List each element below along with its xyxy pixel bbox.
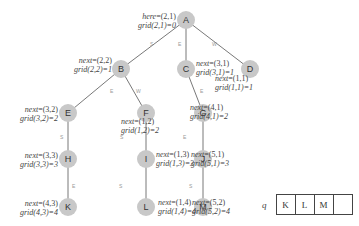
annotation-m: next=(5,2) grid(5,2)=4 (192, 198, 230, 216)
queue-cell: L (296, 195, 315, 214)
annotation-a: here=(2,1) grid(2,1)=0 (120, 12, 176, 30)
edge-label-g-j: E (183, 134, 186, 140)
edge-label-a-c: E (178, 41, 181, 47)
edge-label-b-f: W (136, 88, 141, 94)
edge-label-a-b: S (150, 41, 153, 47)
queue-cells: K L M (276, 194, 353, 215)
annotation-e: next=(3,2) grid(3,2)=2 (0, 105, 58, 123)
edge-label-i-l: S (119, 183, 122, 189)
edge-label-j-m: S (189, 183, 192, 189)
queue-cell (334, 195, 352, 214)
edge-label-e-h: S (60, 134, 63, 140)
node-k: K (59, 198, 77, 216)
annotation-h: next=(3,3) grid(3,3)=3 (0, 151, 58, 169)
node-i: I (137, 150, 155, 168)
node-e: E (59, 104, 77, 122)
annotation-d: next=(1,1) grid(1,1)=1 (215, 74, 253, 92)
annotation-g: next=(4,1) grid(4,1)=2 (190, 103, 228, 121)
annotation-f: next=(1,2) grid(1,2)=2 (121, 117, 159, 135)
node-a: A (177, 11, 195, 29)
edge-label-b-e: E (110, 88, 113, 94)
queue-label: q (262, 200, 267, 210)
annotation-j: next=(5,1) grid(5,1)=3 (191, 150, 229, 168)
node-b: B (112, 60, 130, 78)
edge-label-h-k: E (72, 183, 75, 189)
edge-label-a-d: W (212, 41, 217, 47)
annotation-i: next=(1,3) grid(1,3)=3 (156, 150, 194, 168)
node-c: C (177, 60, 195, 78)
queue: q K L M (262, 194, 353, 215)
edge-label-c-g: E (200, 88, 203, 94)
queue-cell: K (277, 195, 296, 214)
annotation-l: next=(1,4) grid(1,4)=4 (158, 198, 196, 216)
node-h: H (59, 150, 77, 168)
annotation-k: next=(4,3) grid(4,3)=4 (0, 199, 58, 217)
annotation-b: next=(2,2) grid(2,2)=1 (40, 56, 112, 74)
node-l: L (137, 198, 155, 216)
queue-cell: M (315, 195, 334, 214)
